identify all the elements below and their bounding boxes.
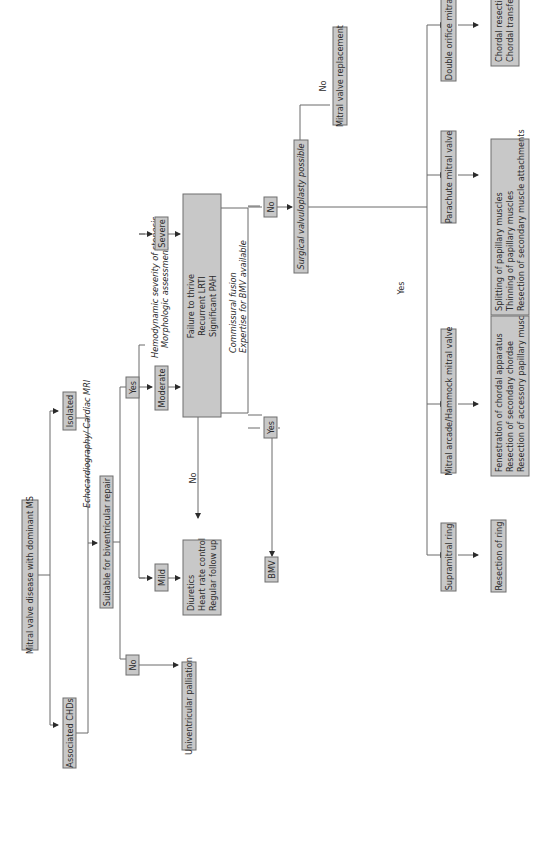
node-associated-chds-label: Associated CHDs xyxy=(65,698,75,767)
node-isolated-label: Isolated xyxy=(65,395,75,427)
node-resect-ring-label: Resection of ring xyxy=(494,522,504,591)
node-mvr: Mitral valve replacement xyxy=(333,24,347,127)
connector-suitable-split xyxy=(113,387,126,659)
node-double-treatment: Chordal resection Chordal transfer xyxy=(491,0,519,66)
arcade-tx-item: Fenestration of chordal apparatus xyxy=(494,333,504,472)
flowchart-canvas: Mitral valve disease with dominant MS As… xyxy=(0,0,545,848)
node-supramitral-label: Supramitral ring xyxy=(444,524,454,591)
annotation-bmv-line1: Commissural fusion xyxy=(228,272,238,353)
node-double-orifice-label: Double orifice mitral valve xyxy=(444,0,454,80)
medical-item: Regular follow up xyxy=(208,540,218,611)
annotation-bmv-line2: Expertise for BMV available xyxy=(238,240,248,353)
medical-item: Diuretics xyxy=(186,575,196,611)
node-associated-chds: Associated CHDs xyxy=(63,698,76,768)
node-suitable: Suitable for biventricular repair xyxy=(100,476,113,608)
node-arcade-label: Mitral arcade/Hammock mitral valve xyxy=(444,326,454,475)
double-tx-item: Chordal transfer xyxy=(505,0,515,62)
node-no-bmv-label: No xyxy=(266,201,276,212)
node-arcade: Mitral arcade/Hammock mitral valve xyxy=(441,326,456,475)
node-bmv-label: BMV xyxy=(267,560,277,579)
node-parachute-treatment: Splitting of papillary muscles Thinning … xyxy=(491,129,529,315)
connector-root-split xyxy=(38,411,50,725)
parachute-tx-item: Splitting of papillary muscles xyxy=(494,192,504,311)
node-suitable-label: Suitable for biventricular repair xyxy=(102,477,112,606)
node-resect-ring: Resection of ring xyxy=(491,520,506,592)
edge-label-no-mvr: No xyxy=(318,80,328,91)
node-yes-bmv: Yes xyxy=(264,417,277,438)
connector-bmv-yes-no xyxy=(248,207,262,415)
node-medical-management: Diuretics Heart rate control Regular fol… xyxy=(183,538,221,615)
node-bmv: BMV xyxy=(265,557,278,582)
node-mild: Mild xyxy=(155,564,168,591)
node-root: Mitral valve disease with dominant MS xyxy=(22,496,38,654)
node-double-orifice: Double orifice mitral valve xyxy=(441,0,456,81)
edge-label-yes-repairs: Yes xyxy=(396,281,406,295)
medical-item: Heart rate control xyxy=(197,538,207,611)
node-mild-label: Mild xyxy=(157,569,167,586)
symptom-item: Failure to thrive xyxy=(186,274,196,338)
node-isolated: Isolated xyxy=(63,392,76,430)
node-yes-biv-label: Yes xyxy=(128,381,138,395)
node-supramitral: Supramitral ring xyxy=(441,523,456,591)
annotation-severity-line2: Morphologic assessment xyxy=(160,246,170,348)
node-mvr-label: Mitral valve replacement xyxy=(335,24,345,127)
symptom-item: Recurrent LRTI xyxy=(197,276,207,336)
node-symptoms: Failure to thrive Recurrent LRTI Signifi… xyxy=(183,194,221,417)
node-parachute-label: Parachute mitral valve xyxy=(444,131,454,223)
node-arcade-treatment: Fenestration of chordal apparatus Resect… xyxy=(491,304,529,476)
connector-yes-split xyxy=(138,234,145,578)
arcade-tx-item: Resection of secondary chordae xyxy=(505,341,515,472)
node-no-univentricular-branch: No xyxy=(126,655,139,675)
node-severe-label: Severe xyxy=(157,219,167,247)
node-univentricular: Univentricular palliation xyxy=(182,657,196,755)
symptom-item: Significant PAH xyxy=(208,275,218,337)
node-root-label: Mitral valve disease with dominant MS xyxy=(25,496,35,654)
parachute-tx-item: Thinning of papillary muscles xyxy=(505,191,515,312)
arcade-tx-item: Resection of accessory papillary muscles xyxy=(516,304,526,472)
flowchart-svg: Mitral valve disease with dominant MS As… xyxy=(0,0,545,848)
node-univentricular-label: Univentricular palliation xyxy=(184,657,194,755)
node-parachute: Parachute mitral valve xyxy=(441,131,456,223)
parachute-tx-item: Resection of secondary muscle attachment… xyxy=(516,129,526,311)
node-yes-biventricular: Yes xyxy=(126,377,139,398)
edge-label-no-medical: No xyxy=(188,472,198,483)
node-surgical-label: Surgical valvuloplasty possible xyxy=(296,143,306,269)
node-yes-bmv-label: Yes xyxy=(266,421,276,435)
connectors xyxy=(38,25,478,733)
connector-symptoms-no-medical xyxy=(205,403,218,526)
node-surgical: Surgical valvuloplasty possible xyxy=(294,140,308,273)
node-severe: Severe xyxy=(155,217,168,250)
node-no-univ-label: No xyxy=(128,659,138,670)
node-moderate: Moderate xyxy=(155,366,168,410)
node-no-bmv: No xyxy=(264,197,277,217)
node-moderate-label: Moderate xyxy=(157,369,167,408)
annotation-imaging: Echocardiography/ Cardiac MRI xyxy=(82,379,92,508)
connector-bmv-split xyxy=(248,206,260,428)
double-tx-item: Chordal resection xyxy=(494,0,504,62)
